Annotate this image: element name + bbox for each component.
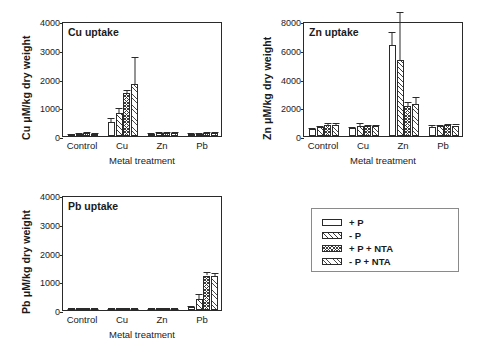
bar[interactable] <box>163 133 170 136</box>
bar-slot <box>203 195 210 310</box>
pb-uptake-title: Pb uptake <box>68 200 118 212</box>
bar-slot <box>412 21 419 136</box>
bar-slot <box>309 21 316 136</box>
cu-uptake-y-tick-label: 4000 <box>40 18 60 28</box>
legend: + P- P+ P + NTA- P + NTA <box>311 208 459 272</box>
error-bar-cap <box>116 309 123 310</box>
error-bar-cap <box>397 12 404 13</box>
bar-slot <box>131 21 138 136</box>
cu-uptake-y-tick-mark <box>60 52 63 53</box>
error-bar-cap <box>163 309 170 310</box>
bar-slot <box>123 195 130 310</box>
bar[interactable] <box>364 126 371 136</box>
pb-uptake-x-tick-cu: Cu <box>116 314 128 325</box>
legend-item[interactable]: + P + NTA <box>322 242 448 255</box>
bar-slot <box>108 21 115 136</box>
error-bar-cap <box>452 124 459 125</box>
error-bar-cap <box>123 90 130 91</box>
zn-uptake-bar-group-cu <box>349 21 380 136</box>
error-bar-cap <box>91 133 98 134</box>
cu-uptake-x-tick-cu: Cu <box>116 140 128 151</box>
bar-slot <box>171 21 178 136</box>
zn-uptake-x-tick-control: Control <box>308 140 339 151</box>
bar[interactable] <box>83 133 90 136</box>
error-bar-cap <box>203 132 210 133</box>
legend-item[interactable]: - P + NTA <box>322 255 448 268</box>
bar[interactable] <box>309 129 316 136</box>
bar-slot <box>397 21 404 136</box>
error-bar-cap <box>123 309 130 310</box>
bar[interactable] <box>372 126 379 136</box>
bar[interactable] <box>123 93 130 136</box>
bar[interactable] <box>349 128 356 136</box>
error-bar <box>392 32 393 45</box>
pb-uptake-x-tick-control: Control <box>67 314 98 325</box>
zn-uptake-y-tick-label: 2000 <box>281 104 301 114</box>
bar[interactable] <box>389 45 396 136</box>
zn-uptake-y-tick-label: 8000 <box>281 18 301 28</box>
zn-uptake-bar-group-pb <box>429 21 460 136</box>
legend-item[interactable]: - P <box>322 229 448 242</box>
bar[interactable] <box>397 60 404 136</box>
bar[interactable] <box>156 133 163 136</box>
cu-uptake-bar-group-zn <box>148 21 179 136</box>
pb-uptake-y-tick-mark <box>60 312 63 313</box>
cu-uptake-bar-group-cu <box>108 21 139 136</box>
pb-uptake-y-axis-title: Pb μM/kg dry weight <box>20 210 32 314</box>
bar-slot <box>68 195 75 310</box>
error-bar-cap <box>148 133 155 134</box>
bar-slot <box>171 195 178 310</box>
bar[interactable] <box>196 134 203 136</box>
error-bar <box>400 12 401 59</box>
error-bar-cap <box>211 132 218 133</box>
bar-slot <box>83 21 90 136</box>
pb-uptake-bar-group-zn <box>148 195 179 310</box>
bar[interactable] <box>332 125 339 136</box>
error-bar-cap <box>156 309 163 310</box>
bar[interactable] <box>116 113 123 136</box>
zn-uptake-title: Zn uptake <box>309 26 359 38</box>
error-bar-cap <box>108 309 115 310</box>
bar[interactable] <box>437 126 444 136</box>
bar[interactable] <box>324 125 331 136</box>
zn-uptake-y-tick-mark <box>301 81 304 82</box>
bar[interactable] <box>203 133 210 136</box>
bar[interactable] <box>76 134 83 136</box>
bar[interactable] <box>171 133 178 136</box>
error-bar-cap <box>196 294 203 295</box>
bar[interactable] <box>108 122 115 136</box>
bar[interactable] <box>196 299 203 311</box>
bar[interactable] <box>412 104 419 136</box>
bar-slot <box>452 21 459 136</box>
bar[interactable] <box>444 125 451 136</box>
error-bar-cap <box>309 128 316 129</box>
bar[interactable] <box>148 134 155 136</box>
bar[interactable] <box>211 133 218 136</box>
zn-uptake-plot-area: 02000400060008000 <box>303 22 463 137</box>
bar-slot <box>372 21 379 136</box>
bar[interactable] <box>317 127 324 136</box>
legend-item[interactable]: + P <box>322 216 448 229</box>
cu-uptake-x-tick-control: Control <box>67 140 98 151</box>
error-bar-cap <box>76 133 83 134</box>
bar[interactable] <box>203 276 210 311</box>
bar[interactable] <box>357 126 364 136</box>
bar[interactable] <box>404 106 411 136</box>
pb-uptake-y-tick-label: 2000 <box>40 250 60 260</box>
zn-uptake-x-tick-zn: Zn <box>397 140 408 151</box>
bar[interactable] <box>91 134 98 136</box>
bar[interactable] <box>452 126 459 136</box>
bar[interactable] <box>211 276 218 310</box>
bar[interactable] <box>429 127 436 136</box>
cu-uptake-y-tick-label: 2000 <box>40 76 60 86</box>
bar[interactable] <box>188 134 195 136</box>
bar[interactable] <box>131 84 138 136</box>
pb-uptake-bar-group-pb <box>188 195 219 310</box>
bar-slot <box>188 195 195 310</box>
bar[interactable] <box>188 307 195 310</box>
bar-slot <box>163 21 170 136</box>
error-bar-cap <box>404 102 411 103</box>
cu-uptake-x-tick-zn: Zn <box>156 140 167 151</box>
bar-slot <box>196 195 203 310</box>
error-bar-cap <box>196 133 203 134</box>
